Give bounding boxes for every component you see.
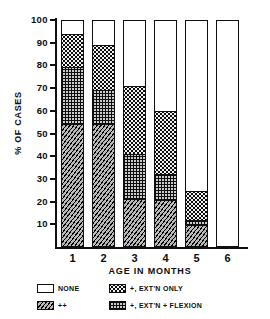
y-tick-mark [50, 155, 56, 157]
legend-item-plusplus: ++ [37, 301, 109, 310]
y-tick-label: 40 [18, 151, 48, 160]
y-tick-label: 70 [18, 83, 48, 92]
bar-segment [93, 21, 114, 46]
bar-segment [62, 68, 83, 124]
x-axis-line [55, 247, 248, 249]
y-tick-label: 10 [18, 219, 48, 228]
y-tick-mark [50, 178, 56, 180]
bar-segment [186, 192, 207, 221]
bar-column [216, 20, 239, 247]
y-tick-label: 80 [18, 60, 48, 69]
bar-segment [186, 21, 207, 192]
x-tick-label: 3 [120, 252, 150, 264]
bar-segment [124, 155, 145, 200]
legend-swatch-ext-flexion-icon [109, 301, 126, 310]
y-tick-label: 50 [18, 129, 48, 138]
legend: NONE +, EXT'N ONLY ++ +, EXT'N + FLEXION [37, 280, 237, 314]
stacked-bar-chart: % OF CASES 102030405060708090100 123456 … [0, 0, 270, 319]
y-tick-label: 60 [18, 106, 48, 115]
y-tick-mark [50, 133, 56, 135]
y-tick-mark [50, 42, 56, 44]
legend-swatch-plusplus-icon [37, 301, 54, 310]
bar-column [92, 20, 115, 247]
y-tick-mark [50, 19, 56, 21]
legend-row: NONE +, EXT'N ONLY [37, 280, 237, 297]
x-axis-title: AGE IN MONTHS [55, 266, 245, 276]
legend-swatch-none-icon [37, 284, 54, 293]
bar-segment [217, 21, 238, 246]
legend-label: ++ [58, 302, 67, 309]
y-tick-mark [50, 223, 56, 225]
x-tick-label: 5 [182, 252, 212, 264]
x-tick-label: 2 [89, 252, 119, 264]
y-tick-mark [50, 201, 56, 203]
bar-segment [62, 21, 83, 35]
bar-segment [155, 201, 176, 246]
legend-label: NONE [58, 285, 79, 292]
y-tick-label: 100 [18, 15, 48, 24]
bar-column [61, 20, 84, 247]
legend-label: +, EXT'N + FLEXION [130, 302, 202, 309]
bar-segment [155, 21, 176, 112]
plot-area [57, 20, 243, 247]
legend-item-ext-flexion: +, EXT'N + FLEXION [109, 301, 202, 310]
bar-segment [62, 35, 83, 69]
legend-swatch-ext-only-icon [109, 284, 126, 293]
x-tick-label: 6 [213, 252, 243, 264]
y-tick-mark [50, 110, 56, 112]
bar-segment [124, 87, 145, 155]
y-tick-label: 20 [18, 197, 48, 206]
bar-segment [93, 125, 114, 246]
legend-row: ++ +, EXT'N + FLEXION [37, 297, 237, 314]
x-tick-label: 4 [151, 252, 181, 264]
bar-column [185, 20, 208, 247]
x-tick-label: 1 [58, 252, 88, 264]
bar-segment [124, 200, 145, 246]
legend-item-ext-only: +, EXT'N ONLY [109, 284, 183, 293]
bar-segment [93, 91, 114, 125]
bar-segment [124, 21, 145, 87]
y-tick-mark [50, 87, 56, 89]
legend-item-none: NONE [37, 284, 109, 293]
bar-column [154, 20, 177, 247]
bar-segment [155, 175, 176, 201]
y-tick-label: 90 [18, 38, 48, 47]
bar-segment [62, 125, 83, 246]
legend-label: +, EXT'N ONLY [130, 285, 183, 292]
y-tick-label: 30 [18, 174, 48, 183]
bar-segment [155, 112, 176, 175]
bar-column [123, 20, 146, 247]
y-tick-mark [50, 64, 56, 66]
bar-segment [186, 226, 207, 246]
bar-segment [93, 46, 114, 91]
